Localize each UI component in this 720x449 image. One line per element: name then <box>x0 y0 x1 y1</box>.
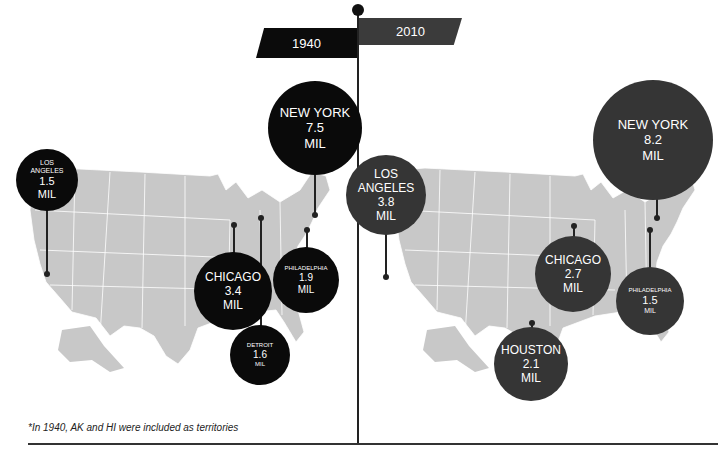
city-name: NEW YORK <box>618 117 689 132</box>
city-population: 3.8 <box>378 195 395 209</box>
city-bubble-philadelphia-1940: PHILADELPHIA 1.9 MIL <box>273 247 339 313</box>
city-bubble-los-angeles-2010: LOS ANGELES 3.8 MIL <box>346 155 426 235</box>
city-population: 2.7 <box>565 267 582 281</box>
city-name: CHICAGO <box>545 253 601 267</box>
city-bubble-houston-2010: HOUSTON 2.1 MIL <box>494 327 568 401</box>
city-name: ANGELES <box>358 181 415 195</box>
city-unit: MIL <box>644 307 656 315</box>
city-population: 1.6 <box>253 349 267 361</box>
city-unit: MIL <box>223 298 243 312</box>
timeline-divider <box>357 10 359 443</box>
city-unit: MIL <box>304 136 326 151</box>
city-population: 8.2 <box>644 132 662 147</box>
pin-dot-philadelphia-1940 <box>304 227 310 233</box>
city-name: LOS <box>374 167 398 181</box>
pin-line-chicago-1940 <box>233 225 235 255</box>
bottom-rule <box>28 443 718 445</box>
city-unit: MIL <box>642 148 664 163</box>
year-banner-1940: 1940 <box>256 28 357 58</box>
city-name: HOUSTON <box>501 343 561 357</box>
city-population: 3.4 <box>225 284 242 298</box>
year-banner-2010: 2010 <box>359 18 462 45</box>
pin-dot-ny-1940 <box>312 212 318 218</box>
pin-line-philadelphia-2010 <box>649 230 651 268</box>
pin-dot-la-2010 <box>383 274 389 280</box>
city-name: ANGELES <box>30 167 63 175</box>
city-population: 7.5 <box>306 120 324 135</box>
pin-line-ny-1940 <box>314 175 316 213</box>
city-unit: MIL <box>255 361 265 368</box>
city-bubble-detroit-1940: DETROIT 1.6 MIL <box>230 325 290 385</box>
city-population: 1.9 <box>299 272 313 284</box>
city-name: PHILADELPHIA <box>628 287 671 294</box>
city-bubble-philadelphia-2010: PHILADELPHIA 1.5 MIL <box>616 267 684 335</box>
city-name: PHILADELPHIA <box>284 265 327 272</box>
city-name: DETROIT <box>247 342 273 349</box>
pin-dot-la-1940 <box>44 271 50 277</box>
pin-dot-philadelphia-2010 <box>647 227 653 233</box>
city-unit: MIL <box>521 371 541 385</box>
pin-dot-ny-2010 <box>654 215 660 221</box>
city-bubble-chicago-2010: CHICAGO 2.7 MIL <box>535 236 611 312</box>
year-label-2010: 2010 <box>396 24 425 39</box>
city-population: 2.1 <box>523 357 540 371</box>
city-bubble-chicago-1940: CHICAGO 3.4 MIL <box>194 252 272 330</box>
city-bubble-los-angeles-1940: LOS ANGELES 1.5 MIL <box>16 149 78 211</box>
city-bubble-new-york-1940: NEW YORK 7.5 MIL <box>268 81 362 175</box>
city-unit: MIL <box>563 281 583 295</box>
pin-dot-chicago-1940 <box>231 222 237 228</box>
city-unit: MIL <box>376 209 396 223</box>
city-unit: MIL <box>298 284 315 296</box>
city-bubble-new-york-2010: NEW YORK 8.2 MIL <box>593 80 713 200</box>
city-population: 1.5 <box>39 175 54 188</box>
city-unit: MIL <box>38 188 56 201</box>
pin-line-la-2010 <box>385 232 387 276</box>
pin-dot-houston-2010 <box>529 320 535 326</box>
city-population: 1.5 <box>642 294 657 307</box>
pin-line-la-1940 <box>46 210 48 273</box>
footnote: *In 1940, AK and HI were included as ter… <box>28 422 238 433</box>
pin-dot-detroit-1940 <box>258 215 264 221</box>
pin-dot-chicago-2010 <box>571 223 577 229</box>
city-name: NEW YORK <box>280 105 351 120</box>
city-name: CHICAGO <box>205 270 261 284</box>
city-name: LOS <box>40 159 54 167</box>
year-label-1940: 1940 <box>292 36 321 51</box>
timeline-top-dot <box>352 4 364 16</box>
